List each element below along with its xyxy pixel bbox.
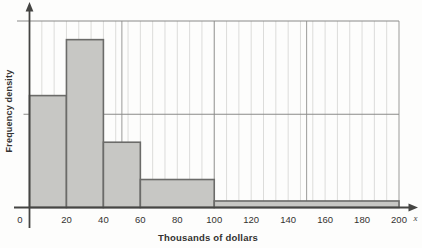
x-tick-label-180: 180 <box>354 214 370 225</box>
x-tick-label-120: 120 <box>243 214 259 225</box>
chart-canvas: 204060801001201401601802000x <box>0 0 422 248</box>
histogram-bar-60-100 <box>140 180 214 208</box>
x-tick-label-160: 160 <box>317 214 333 225</box>
x-tick-label-40: 40 <box>98 214 109 225</box>
x-tick-label-100: 100 <box>206 214 222 225</box>
histogram-bar-40-60 <box>103 142 140 207</box>
x-axis-title: Thousands of dollars <box>158 232 258 243</box>
histogram-bar-100-200 <box>214 201 399 208</box>
x-axis-arrowhead-icon <box>409 204 419 212</box>
x-tick-label-140: 140 <box>280 214 296 225</box>
x-var-label: x <box>413 213 418 223</box>
histogram-figure: 204060801001201401601802000x Frequency d… <box>0 0 422 248</box>
y-axis-title: Frequency density <box>4 70 14 153</box>
y-axis-arrowhead-icon <box>26 2 34 12</box>
origin-label: 0 <box>17 214 22 225</box>
x-tick-label-80: 80 <box>172 214 183 225</box>
histogram-bar-20-40 <box>66 40 103 208</box>
x-tick-label-200: 200 <box>391 214 407 225</box>
x-tick-label-60: 60 <box>135 214 146 225</box>
histogram-bar-0-20 <box>30 96 67 208</box>
x-tick-label-20: 20 <box>61 214 72 225</box>
